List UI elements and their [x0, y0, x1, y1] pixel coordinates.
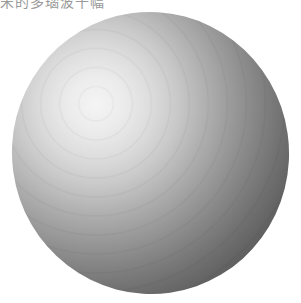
cropped-caption-text: 宋的多瑙波十幅	[0, 0, 105, 11]
image-canvas: 宋的多瑙波十幅	[0, 0, 301, 303]
shaded-sphere	[0, 0, 301, 303]
